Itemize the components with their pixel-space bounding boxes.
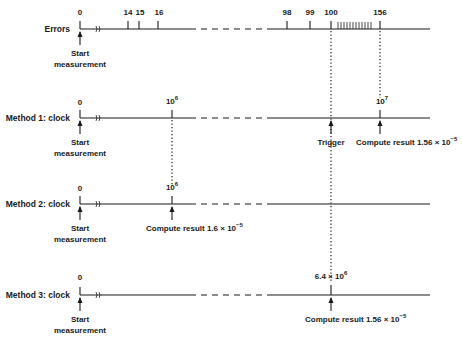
tick-label: 0 (78, 99, 82, 107)
tick-label: 156 (373, 9, 386, 17)
tick-label: 0 (78, 185, 82, 193)
tick-label: 98 (283, 9, 292, 17)
tick-label: 16 (155, 9, 164, 17)
start-note: Start (71, 316, 89, 324)
start-note: Start (71, 139, 89, 147)
tick-label: 100 (324, 9, 337, 17)
start-note: Start (71, 225, 89, 233)
compute-result-label: Compute result 1.56 × 10−5 (305, 316, 406, 324)
start-note: measurement (54, 150, 106, 158)
start-note: Start (71, 50, 89, 58)
row-label-method-3: Method 3: clock (6, 291, 70, 300)
tick-label-6.4x10e6: 6.4 × 106 (315, 273, 347, 281)
trigger-label: Trigger (317, 139, 344, 147)
tick-label-10e7: 107 (376, 98, 388, 106)
tick-label: 0 (78, 274, 82, 282)
tick-label: 14 (124, 9, 133, 17)
start-note: measurement (54, 327, 106, 335)
tick-label: 15 (136, 9, 145, 17)
tick-label-10e6: 106 (166, 98, 178, 106)
start-note: measurement (54, 236, 106, 244)
compute-result-label: Compute result 1.6 × 10−5 (146, 225, 243, 233)
start-note: measurement (54, 61, 106, 69)
row-label-method-1: Method 1: clock (6, 114, 70, 123)
tick-label-10e6: 106 (166, 184, 178, 192)
compute-result-label: Compute result 1.56 × 10−5 (356, 139, 457, 147)
tick-label: 99 (306, 9, 315, 17)
row-label-errors: Errors (44, 25, 70, 34)
tick-label: 0 (78, 9, 82, 17)
row-label-method-2: Method 2: clock (6, 200, 70, 209)
